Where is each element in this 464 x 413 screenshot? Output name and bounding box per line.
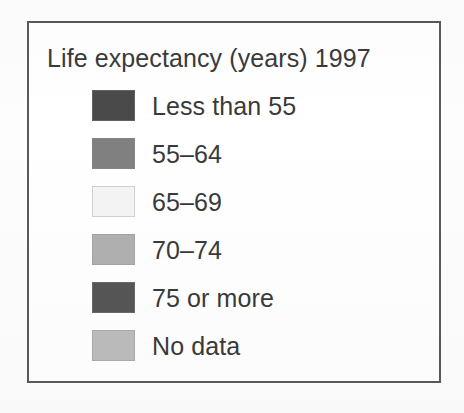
swatch-55-64 xyxy=(92,138,135,169)
swatch-65-69 xyxy=(92,186,135,217)
legend-item-no-data: No data xyxy=(29,325,439,373)
legend-item-70-74: 70–74 xyxy=(29,229,439,277)
legend-page: Life expectancy (years) 1997 Less than 5… xyxy=(0,0,464,413)
swatch-less-than-55 xyxy=(92,90,135,121)
swatch-no-data xyxy=(92,330,135,361)
legend-item-label: 70–74 xyxy=(152,229,222,271)
legend-box: Life expectancy (years) 1997 Less than 5… xyxy=(27,21,441,383)
legend-items-list: Less than 55 55–64 65–69 70–74 75 or mor… xyxy=(29,85,439,373)
legend-item-75-or-more: 75 or more xyxy=(29,277,439,325)
legend-item-65-69: 65–69 xyxy=(29,181,439,229)
legend-item-label: No data xyxy=(152,325,240,367)
swatch-75-or-more xyxy=(92,282,135,313)
legend-item-label: 65–69 xyxy=(152,181,222,223)
legend-item-less-than-55: Less than 55 xyxy=(29,85,439,133)
legend-item-label: Less than 55 xyxy=(152,85,296,127)
legend-item-label: 55–64 xyxy=(152,133,222,175)
legend-title: Life expectancy (years) 1997 xyxy=(47,43,371,73)
swatch-70-74 xyxy=(92,234,135,265)
legend-item-55-64: 55–64 xyxy=(29,133,439,181)
legend-item-label: 75 or more xyxy=(152,277,274,319)
